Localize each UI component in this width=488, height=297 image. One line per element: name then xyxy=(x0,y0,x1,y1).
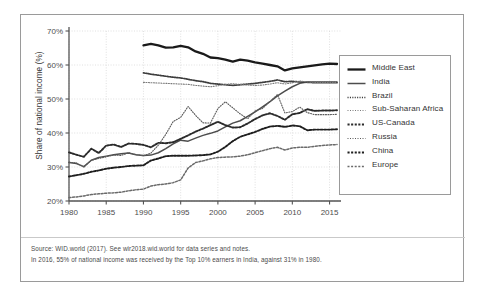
series-line xyxy=(69,109,337,157)
legend-label: Europe xyxy=(372,160,398,169)
svg-text:30%: 30% xyxy=(47,163,63,172)
legend-swatch-icon xyxy=(347,65,366,74)
svg-text:1995: 1995 xyxy=(172,208,190,217)
y-tick-labels: 20%30%40%50%60%70% xyxy=(47,27,63,206)
series-line xyxy=(69,82,337,167)
legend-swatch-icon xyxy=(347,120,366,129)
series-line xyxy=(69,145,337,198)
legend-swatch-icon xyxy=(347,79,366,88)
svg-text:2005: 2005 xyxy=(246,208,264,217)
figure-panel: Share of national income (%) 20%30%40%50… xyxy=(20,14,464,282)
legend-item[interactable]: Brazil xyxy=(340,91,450,100)
y-axis-label: Share of national income (%) xyxy=(35,36,44,176)
svg-text:2000: 2000 xyxy=(209,208,227,217)
svg-text:20%: 20% xyxy=(47,197,63,206)
legend-item[interactable]: Europe xyxy=(340,160,450,169)
legend-label: Sub-Saharan Africa xyxy=(372,104,443,113)
notes-block: Source: WID.world (2017). See wir2018.wi… xyxy=(21,237,465,281)
series-line xyxy=(69,126,337,177)
chart-legend: Middle EastIndiaBrazilSub-Saharan Africa… xyxy=(339,55,451,195)
source-line: Source: WID.world (2017). See wir2018.wi… xyxy=(31,244,455,255)
legend-swatch-icon xyxy=(347,134,366,143)
svg-text:40%: 40% xyxy=(47,129,63,138)
legend-swatch-icon xyxy=(347,148,366,157)
footnote-line: In 2016, 55% of national income was rece… xyxy=(31,255,455,266)
grid-lines xyxy=(69,31,341,201)
svg-text:1980: 1980 xyxy=(60,208,78,217)
legend-label: China xyxy=(372,146,393,155)
legend-label: Russia xyxy=(372,132,397,141)
series-lines xyxy=(69,44,337,198)
legend-label: Brazil xyxy=(372,91,393,100)
svg-text:70%: 70% xyxy=(47,27,63,36)
legend-label: US-Canada xyxy=(372,118,415,127)
svg-text:60%: 60% xyxy=(47,61,63,70)
x-tick-labels: 19801985199019952000200520102015 xyxy=(60,208,339,217)
legend-label: India xyxy=(372,77,390,86)
legend-swatch-icon xyxy=(347,162,366,171)
legend-item[interactable]: Russia xyxy=(340,132,450,141)
series-line xyxy=(143,73,337,86)
legend-swatch-icon xyxy=(347,93,366,102)
svg-text:2010: 2010 xyxy=(283,208,301,217)
plot-area: Share of national income (%) 20%30%40%50… xyxy=(21,15,465,237)
legend-label: Middle East xyxy=(372,63,415,72)
svg-text:50%: 50% xyxy=(47,95,63,104)
series-line xyxy=(143,81,337,87)
svg-text:2015: 2015 xyxy=(321,208,339,217)
legend-item[interactable]: US-Canada xyxy=(340,118,450,127)
legend-item[interactable]: Sub-Saharan Africa xyxy=(340,104,450,113)
legend-item[interactable]: India xyxy=(340,77,450,86)
series-line xyxy=(143,44,337,71)
svg-text:1985: 1985 xyxy=(97,208,115,217)
legend-item[interactable]: Middle East xyxy=(340,63,450,72)
legend-swatch-icon xyxy=(347,106,366,115)
legend-item[interactable]: China xyxy=(340,146,450,155)
svg-text:1990: 1990 xyxy=(135,208,153,217)
